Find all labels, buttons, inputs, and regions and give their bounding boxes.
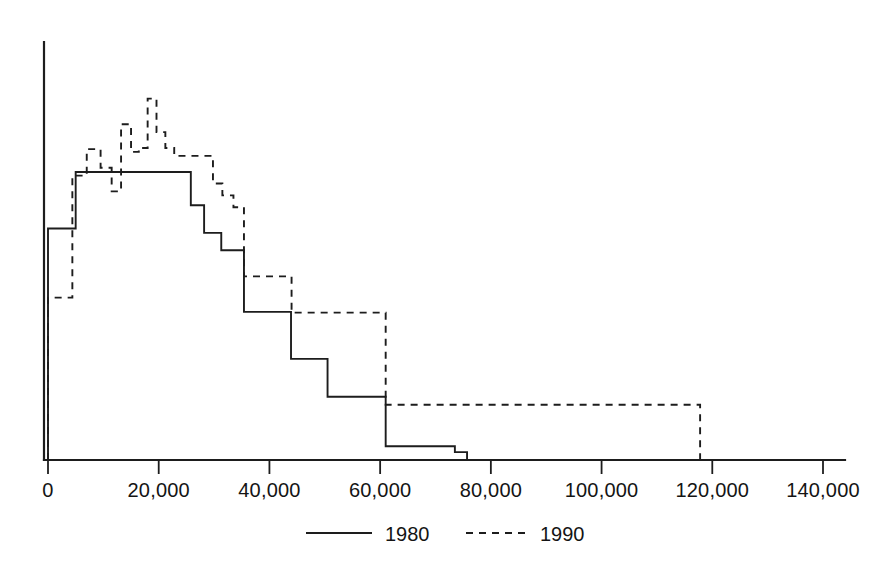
histogram-plot: 020,00040,00060,00080,000100,000120,0001… — [0, 0, 889, 569]
series-line-1980 — [48, 172, 467, 460]
legend: 1980 1990 — [306, 523, 585, 545]
x-tick-label-80000: 80,000 — [460, 479, 522, 501]
x-tick-label-120000: 120,000 — [675, 479, 749, 501]
legend-label-1990: 1990 — [540, 523, 585, 545]
series-line-1990 — [48, 99, 700, 460]
x-tick-label-140000: 140,000 — [786, 479, 860, 501]
x-axis-tick-labels: 020,00040,00060,00080,000100,000120,0001… — [42, 479, 860, 501]
x-tick-label-0: 0 — [42, 479, 53, 501]
x-axis-ticks — [48, 460, 823, 474]
chart-container: 020,00040,00060,00080,000100,000120,0001… — [0, 0, 889, 569]
x-tick-label-100000: 100,000 — [565, 479, 639, 501]
x-tick-label-40000: 40,000 — [238, 479, 300, 501]
x-tick-label-60000: 60,000 — [349, 479, 411, 501]
x-tick-label-20000: 20,000 — [128, 479, 190, 501]
legend-label-1980: 1980 — [385, 523, 430, 545]
